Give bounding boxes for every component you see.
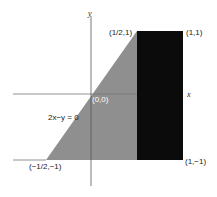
label-one-one: (1,1) (186, 28, 203, 37)
y-axis-label: y (87, 9, 92, 18)
label-one-neg-one: (1,−1) (185, 157, 206, 166)
label-neg-half-neg-one: (−1/2,−1) (29, 162, 62, 171)
label-line-equation: 2x−y = 0 (48, 113, 79, 122)
label-origin: (0,0) (92, 95, 109, 104)
x-axis-label: x (186, 90, 191, 99)
black-rectangle-region (137, 31, 183, 160)
label-half-one: (1/2,1) (109, 28, 132, 37)
region-diagram: y x (1/2,1) (1,1) (0,0) 2x−y = 0 (−1/2,−… (0, 0, 217, 197)
